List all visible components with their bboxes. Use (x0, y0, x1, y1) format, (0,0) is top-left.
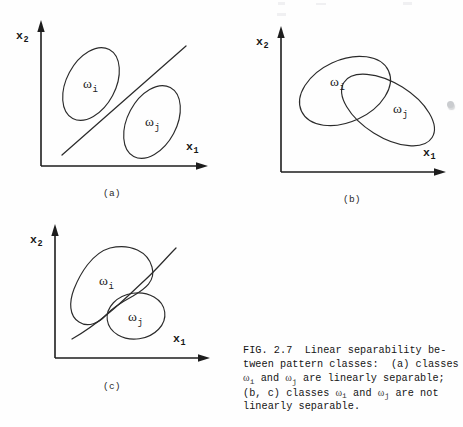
caption-line-4-mid: and (347, 388, 378, 399)
panel-tag-b: (b) (343, 194, 361, 205)
caption-line-2: tween pattern classes: (a) classes (243, 358, 458, 372)
panel-a: x2 x1 ωi ωj (a) (0, 8, 232, 208)
scan-speck-artifact (403, 2, 412, 5)
caption-line-3: ωi and ωj are linearly separable; (243, 371, 458, 386)
caption-omega-j-1: ωj (285, 372, 297, 383)
x-axis-arrow-c (198, 354, 210, 361)
y-axis-arrow-b (277, 26, 284, 38)
caption-line-4-pre: (b, c) classes (243, 388, 335, 399)
panel-tag-c: (c) (103, 381, 121, 392)
caption-omega-j-2: ωj (378, 387, 390, 398)
region-omega-i-b (288, 43, 401, 140)
figure-root: x2 x1 ωi ωj (a) x2 x1 ωi ωj (b) (0, 0, 463, 427)
class-sub-i-a: i (92, 85, 97, 95)
caption-line-4: (b, c) classes ωi and ωj are not (243, 386, 458, 401)
class-sub-j-c: j (137, 318, 142, 328)
x-axis-label-a: x1 (186, 141, 198, 153)
y-axis-label-a: x2 (16, 30, 28, 42)
x-axis-sub-c: 1 (180, 338, 185, 348)
class-label-omega-i-a: ωi (83, 77, 97, 91)
y-axis-label-b: x2 (256, 36, 268, 48)
panel-c: x2 x1 ωi ωj (c) (14, 212, 246, 412)
x-axis-arrow-b (434, 168, 446, 175)
x-axis-arrow-a (196, 162, 208, 169)
caption-line-5: linearly separable. (243, 400, 458, 414)
caption-line-1: FIG. 2.7 Linear separability be- (243, 344, 458, 358)
class-sub-j-a: j (154, 123, 159, 133)
y-axis-sub-c: 2 (37, 239, 42, 249)
caption-line-4-post: are not (389, 388, 438, 399)
panel-tag-a: (a) (103, 188, 121, 199)
panel-b: x2 x1 ωi ωj (b) (240, 14, 463, 214)
class-label-omega-j-c: ωj (128, 310, 142, 324)
caption-line-3-post: are linearly separable; (297, 373, 445, 384)
class-label-omega-j-a: ωj (145, 115, 159, 129)
decision-boundary-c (72, 248, 176, 339)
class-sub-i-c: i (108, 282, 113, 292)
panel-a-graphic (0, 8, 232, 208)
class-sub-j-b: j (402, 110, 407, 120)
caption-omega-i-1: ωi (243, 372, 255, 383)
x-axis-sub-a: 1 (193, 146, 198, 156)
panel-b-graphic (240, 14, 463, 214)
x-axis-sub-b: 1 (430, 152, 435, 162)
scan-speck-artifact (316, 3, 326, 5)
class-label-omega-j-b: ωj (393, 102, 407, 116)
x-axis-label-c: x1 (173, 333, 185, 345)
y-axis-label-c: x2 (30, 234, 42, 246)
class-label-omega-i-b: ωi (330, 75, 344, 89)
class-sub-i-b: i (339, 83, 344, 93)
y-axis-arrow-c (51, 224, 58, 236)
y-axis-arrow-a (37, 20, 44, 32)
figure-caption: FIG. 2.7 Linear separability be- tween p… (243, 344, 458, 414)
scan-speck-artifact (278, 2, 285, 5)
y-axis-sub-b: 2 (263, 41, 268, 51)
caption-line-3-mid: and (255, 373, 286, 384)
caption-omega-i-2: ωi (335, 387, 347, 398)
x-axis-label-b: x1 (423, 147, 435, 159)
y-axis-sub-a: 2 (23, 35, 28, 45)
class-label-omega-i-c: ωi (99, 274, 113, 288)
